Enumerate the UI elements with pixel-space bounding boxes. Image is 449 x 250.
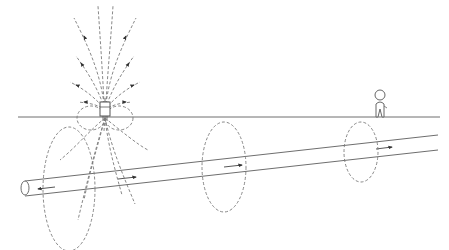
operator-person — [375, 90, 387, 117]
diagram-canvas — [0, 0, 449, 250]
field-ellipse-far — [344, 122, 378, 182]
pipe-field-ellipses — [43, 122, 378, 250]
transmitter-field-lines — [70, 6, 140, 108]
pipe-end-cap — [21, 181, 29, 195]
pipe-locator-diagram — [0, 0, 449, 250]
field-direction-arrows — [76, 36, 134, 102]
buried-pipe — [21, 135, 438, 196]
field-ellipse-near — [43, 127, 95, 250]
